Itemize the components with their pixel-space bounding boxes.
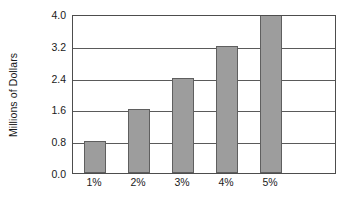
y-axis-tick-label: 4.0 <box>51 9 66 21</box>
gridline <box>73 48 335 49</box>
y-axis-tick-label: 1.6 <box>51 104 66 116</box>
y-axis-tick-labels: 0.00.81.62.43.24.0 <box>26 0 70 203</box>
bar <box>128 109 151 173</box>
gridline <box>73 111 335 112</box>
plot-area <box>72 15 336 174</box>
gridline <box>73 143 335 144</box>
x-axis-tick-label: 5% <box>262 176 277 188</box>
gridline <box>73 80 335 81</box>
y-axis-tick-label: 3.2 <box>51 41 66 53</box>
x-axis-tick-label: 2% <box>130 176 145 188</box>
x-axis-tick-label: 3% <box>174 176 189 188</box>
x-axis-tick-label: 1% <box>86 176 101 188</box>
bar <box>172 78 195 173</box>
bar <box>84 141 107 173</box>
bar <box>216 46 239 173</box>
x-axis-tick-labels: 1%2%3%4%5% <box>72 176 336 196</box>
y-axis-tick-label: 0.8 <box>51 136 66 148</box>
bar-chart-figure: Millions of Dollars 0.00.81.62.43.24.0 1… <box>0 0 353 203</box>
y-axis-tick-label: 2.4 <box>51 73 66 85</box>
y-axis-title: Millions of Dollars <box>2 16 24 174</box>
y-axis-tick-label: 0.0 <box>51 168 66 180</box>
y-axis-title-text: Millions of Dollars <box>7 53 19 137</box>
bar <box>260 15 283 173</box>
x-axis-tick-label: 4% <box>218 176 233 188</box>
